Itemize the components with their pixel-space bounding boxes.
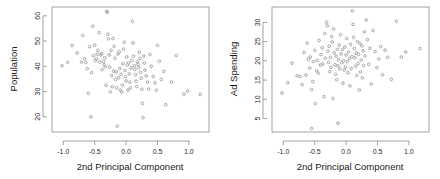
data-point <box>390 78 393 81</box>
data-point <box>91 25 94 28</box>
data-point <box>327 50 330 53</box>
x-axis-title-left: 2nd Principal Component <box>77 161 184 172</box>
data-point <box>345 54 348 57</box>
y-tick-label: 15 <box>255 76 262 84</box>
scatter-panel-ad-spending: -1.0-0.50.00.51.0 51015202530 2nd Princi… <box>220 0 440 179</box>
x-tick-label: 1.0 <box>404 148 414 155</box>
data-point <box>90 71 93 74</box>
data-point <box>170 81 173 84</box>
data-point <box>124 69 127 72</box>
data-point <box>131 20 134 23</box>
data-point <box>110 74 113 77</box>
data-point <box>143 62 146 65</box>
data-point <box>330 35 333 38</box>
data-point <box>96 49 99 52</box>
data-point <box>400 56 403 59</box>
data-point <box>333 63 336 66</box>
data-point <box>130 67 133 70</box>
x-axis-right: -1.0-0.50.00.51.0 <box>277 141 414 155</box>
data-point <box>354 65 357 68</box>
data-point <box>114 78 117 81</box>
data-point <box>369 47 372 50</box>
data-point <box>318 39 321 42</box>
data-point <box>346 60 349 63</box>
data-point <box>367 63 370 66</box>
data-point <box>96 53 99 56</box>
x-tick-label: 0.5 <box>373 148 383 155</box>
data-point <box>337 65 340 68</box>
data-point <box>337 58 340 61</box>
data-point <box>342 60 345 63</box>
data-point <box>338 44 341 47</box>
data-point <box>305 74 308 77</box>
data-point <box>116 125 119 128</box>
data-point <box>135 80 138 83</box>
data-point <box>86 67 89 70</box>
data-point <box>139 57 142 60</box>
data-point <box>146 81 149 84</box>
data-point <box>111 85 114 88</box>
data-point <box>339 33 342 36</box>
data-point <box>370 83 373 86</box>
y-axis-title-left: Population <box>8 47 19 92</box>
data-point <box>199 93 202 96</box>
data-point <box>145 75 148 78</box>
x-tick-label: -0.5 <box>309 148 321 155</box>
data-point <box>349 85 352 88</box>
data-point <box>317 72 320 75</box>
figure-container: -1.0-0.50.00.51.0 2030405060 2nd Princip… <box>0 0 440 179</box>
data-point <box>322 63 325 66</box>
data-point <box>372 29 375 32</box>
data-point <box>118 50 121 53</box>
scatter-plot-population-svg: -1.0-0.50.00.51.0 2030405060 2nd Princip… <box>0 0 220 179</box>
data-point <box>340 53 343 56</box>
data-point <box>321 46 324 49</box>
data-point <box>419 47 422 50</box>
data-point <box>98 31 101 34</box>
data-point <box>130 59 133 62</box>
data-point <box>154 81 157 84</box>
data-point <box>144 69 147 72</box>
data-point <box>164 103 167 106</box>
data-point <box>379 45 382 48</box>
data-point <box>404 51 407 54</box>
data-point <box>366 38 369 41</box>
data-point <box>150 65 153 68</box>
data-point <box>155 89 158 92</box>
data-point <box>132 55 135 58</box>
y-tick-label: 50 <box>35 37 42 45</box>
data-point <box>327 61 330 64</box>
data-point <box>329 56 332 59</box>
x-tick-label: 0.5 <box>153 148 163 155</box>
data-point <box>364 55 367 58</box>
data-point <box>306 42 309 45</box>
data-point <box>186 90 189 93</box>
data-point <box>123 41 126 44</box>
data-point <box>357 62 360 65</box>
data-point <box>384 49 387 52</box>
data-point <box>156 44 159 47</box>
data-point <box>112 37 115 40</box>
data-point <box>162 70 165 73</box>
data-point <box>377 58 380 61</box>
data-point <box>326 25 329 28</box>
data-point <box>355 74 358 77</box>
data-point <box>362 64 365 67</box>
data-point <box>102 60 105 63</box>
data-point <box>103 56 106 59</box>
data-point <box>133 64 136 67</box>
data-point <box>127 61 130 64</box>
data-point <box>335 55 338 58</box>
data-point <box>323 95 326 98</box>
data-point <box>76 52 79 55</box>
data-point <box>344 66 347 69</box>
data-point <box>350 55 353 58</box>
data-point <box>140 88 143 91</box>
data-point <box>128 73 131 76</box>
y-tick-label: 30 <box>255 18 262 26</box>
data-point <box>347 51 350 54</box>
data-point <box>349 43 352 46</box>
x-axis-title-right: 2nd Principal Component <box>297 161 404 172</box>
data-point <box>357 53 360 56</box>
x-tick-label: -0.5 <box>89 148 101 155</box>
